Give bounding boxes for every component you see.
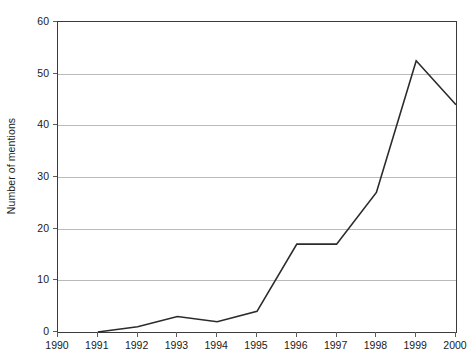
y-axis-tick-label: 60 [37,15,49,27]
y-axis-tick-label: 20 [37,222,49,234]
x-axis-tick-mark [137,332,138,337]
x-axis-tick-mark [375,332,376,337]
x-axis-tick-label: 1997 [324,339,347,351]
x-axis-tick-mark [296,332,297,337]
y-axis-tick-label: 0 [43,325,49,337]
x-axis-tick-label: 1992 [125,339,148,351]
x-axis-tick-label: 1993 [165,339,188,351]
x-axis-tick-label: 1996 [284,339,307,351]
y-axis-title: Number of mentions [0,0,22,331]
x-axis-tick-mark [336,332,337,337]
x-axis-tick-mark [455,332,456,337]
x-axis-tick-mark [57,332,58,337]
x-axis-tick-label: 1990 [45,339,68,351]
y-axis-tick-label: 50 [37,67,49,79]
x-axis-tick-mark [415,332,416,337]
y-axis-tick-label: 10 [37,273,49,285]
line-chart: Number of mentions 0102030405060 1990199… [0,0,469,359]
y-axis-tick-label: 30 [37,170,49,182]
x-axis-tick-labels: 1990199119921993199419951996199719981999… [57,339,456,359]
y-axis-tick-label: 40 [37,118,49,130]
plot-area [57,21,457,333]
x-axis-tick-label: 1998 [364,339,387,351]
x-axis-tick-label: 1991 [85,339,108,351]
x-axis-tick-mark [97,332,98,337]
x-axis-tick-label: 1994 [205,339,228,351]
x-axis-tick-mark [256,332,257,337]
x-axis-tick-label: 1995 [244,339,267,351]
y-axis-tick-labels: 0102030405060 [22,0,53,359]
y-axis-title-label: Number of mentions [5,117,17,213]
x-axis-tick-label: 2000 [443,339,466,351]
x-axis-tick-mark [176,332,177,337]
series-line-number-of-mentions [58,22,456,332]
x-axis-tick-marks [57,332,456,338]
x-axis-tick-label: 1999 [404,339,427,351]
x-axis-tick-mark [216,332,217,337]
